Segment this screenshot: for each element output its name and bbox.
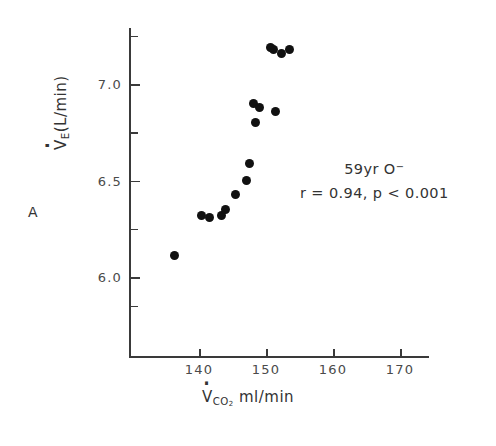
annotation-superscript: −	[396, 161, 405, 172]
y-axis-minor-tick	[130, 229, 138, 231]
data-point	[205, 213, 214, 222]
x-axis-tick-label: 150	[252, 362, 280, 377]
y-axis-minor-tick	[130, 306, 138, 308]
x-axis-tick	[266, 349, 268, 357]
x-axis-tick-label: 160	[319, 362, 347, 377]
x-axis-label: VCO2 ml/min	[0, 388, 496, 406]
data-point	[170, 251, 179, 260]
y-axis-line	[129, 28, 131, 358]
y-axis-tick-label: 7.0	[84, 77, 122, 92]
y-axis-tick	[130, 84, 140, 86]
y-axis-minor-tick	[130, 36, 138, 38]
data-point	[255, 103, 264, 112]
data-point	[242, 176, 251, 185]
data-point	[251, 118, 260, 127]
annotation-block: 59yr O− r = 0.94, p < 0.001	[300, 158, 449, 206]
data-point	[221, 205, 230, 214]
x-axis-tick	[400, 349, 402, 357]
x-axis-tick	[199, 349, 201, 357]
x-axis-tick-label: 170	[386, 362, 414, 377]
scatter-plot-figure: 1401501601706.06.57.0 VE(L/min) VCO2 ml/…	[0, 0, 496, 446]
y-axis-tick-label: 6.0	[84, 270, 122, 285]
x-axis-line	[129, 356, 429, 358]
panel-label: A	[28, 204, 39, 220]
x-axis-tick	[333, 349, 335, 357]
data-point	[245, 159, 254, 168]
data-point	[285, 45, 294, 54]
data-point	[231, 190, 240, 199]
annotation-subject-line: 59yr O−	[300, 158, 449, 182]
y-axis-label-subscript: E	[60, 132, 71, 139]
data-point	[266, 43, 275, 52]
y-axis-tick	[130, 181, 140, 183]
y-axis-label: VE(L/min)	[52, 10, 70, 150]
y-axis-tick	[130, 277, 140, 279]
data-point	[271, 107, 280, 116]
x-axis-label-subscript: CO2	[213, 396, 234, 407]
y-axis-label-symbol: V	[52, 139, 70, 150]
y-axis-minor-tick	[130, 132, 138, 134]
x-axis-label-symbol: V	[202, 388, 213, 406]
y-axis-tick-label: 6.5	[84, 173, 122, 188]
annotation-stats-line: r = 0.94, p < 0.001	[300, 182, 449, 206]
